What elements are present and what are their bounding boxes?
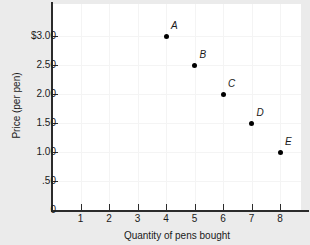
data-point-label: B <box>200 50 207 60</box>
x-axis-tick <box>223 204 224 210</box>
x-axis-title: Quantity of pens bought <box>53 230 301 241</box>
data-point-label: D <box>257 108 264 118</box>
data-point-marker <box>249 121 254 126</box>
gridline-horizontal <box>53 152 301 153</box>
x-axis-tick <box>252 204 253 210</box>
data-point-marker <box>278 150 283 155</box>
x-axis-tick <box>138 204 139 210</box>
x-axis-tick <box>166 204 167 210</box>
x-axis-tick-label: 7 <box>242 214 262 224</box>
data-point-label: A <box>171 21 178 31</box>
gridline-horizontal <box>53 65 301 66</box>
y-axis-tick-label: 2.50 <box>37 60 56 70</box>
data-point-label: E <box>285 137 292 147</box>
y-axis-tick-label: 1.50 <box>37 118 56 128</box>
y-axis-tick-label: 2.00 <box>37 89 56 99</box>
y-axis-tick-label: $3.00 <box>31 31 56 41</box>
scatter-chart: 0.501.001.502.002.50$3.0012345678 ABCDE … <box>0 0 310 245</box>
x-axis-tick-label: 3 <box>128 214 148 224</box>
x-axis-line <box>51 210 309 212</box>
x-axis-tick-label: 5 <box>185 214 205 224</box>
y-axis-title: Price (per pen) <box>11 46 22 166</box>
gridline-horizontal <box>53 123 301 124</box>
x-axis-tick-label: 4 <box>156 214 176 224</box>
y-axis-tick-label: 1.00 <box>37 147 56 157</box>
gridline-horizontal <box>53 36 301 37</box>
data-point-marker <box>164 34 169 39</box>
x-axis-tick <box>109 204 110 210</box>
x-axis-tick-label: 8 <box>270 214 290 224</box>
data-point-marker <box>221 92 226 97</box>
x-axis-tick-label: 1 <box>71 214 91 224</box>
x-axis-tick-label: 2 <box>99 214 119 224</box>
y-axis-tick-label: .50 <box>42 176 56 186</box>
x-axis-tick-label: 6 <box>213 214 233 224</box>
gridline-horizontal <box>53 94 301 95</box>
gridline-horizontal <box>53 181 301 182</box>
plot-area <box>53 4 301 211</box>
x-axis-tick <box>195 204 196 210</box>
data-point-marker <box>192 63 197 68</box>
x-axis-tick <box>81 204 82 210</box>
y-axis-tick-label: 0 <box>50 205 56 215</box>
x-axis-tick <box>280 204 281 210</box>
data-point-label: C <box>228 79 235 89</box>
